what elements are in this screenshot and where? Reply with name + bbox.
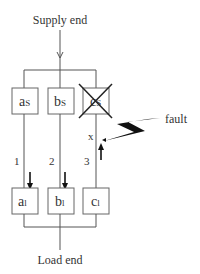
supply-box-c-failed: cS: [79, 84, 112, 118]
feeder-diagram: Supply end aS bS cS 1 2 3 x: [0, 0, 200, 274]
lightning-bolt-icon: [104, 118, 160, 141]
fault-label: fault: [165, 112, 188, 126]
branch-label-2: 2: [49, 155, 55, 167]
load-box-a: al: [12, 188, 38, 214]
load-box-c: cl: [83, 188, 109, 214]
up-arrow-icon: [98, 143, 104, 160]
branch-label-1: 1: [14, 155, 20, 167]
fault-point-label: x: [88, 130, 94, 142]
load-end-label: Load end: [38, 253, 83, 267]
supply-box-b: bS: [48, 88, 74, 114]
down-arrow-icon-2: [62, 172, 68, 190]
load-box-b: bl: [48, 188, 74, 214]
branch-label-3: 3: [84, 155, 90, 167]
down-arrow-icon-1: [27, 172, 33, 190]
supply-box-a: aS: [12, 88, 38, 114]
supply-end-label: Supply end: [33, 13, 87, 27]
